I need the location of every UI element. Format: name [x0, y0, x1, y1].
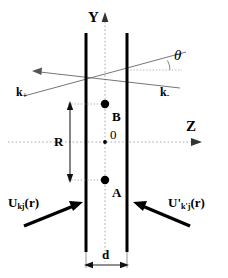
origin-label: 0	[110, 128, 117, 141]
k-plus-base: k	[16, 85, 23, 99]
physics-diagram-figure: Y Z 0 B A R d k+ k- θ Ukj(r) U'k'j(r)	[0, 0, 228, 278]
right-field-label: U'k'j(r)	[168, 196, 205, 209]
z-axis-label: Z	[186, 119, 196, 134]
left-field-subscript: kj	[17, 202, 24, 211]
y-axis-arrowhead-icon	[102, 12, 109, 22]
r-measure-arrowhead-bottom-icon	[67, 174, 73, 183]
k-minus-label: k-	[160, 86, 169, 98]
right-field-argument: (r)	[190, 195, 204, 210]
right-field-arrowhead-icon	[133, 201, 147, 211]
left-field-arrowhead-icon	[69, 201, 83, 211]
d-measure-arrowhead-right-icon	[120, 262, 129, 268]
z-axis-arrowhead-icon	[191, 138, 202, 146]
left-field-label: Ukj(r)	[8, 196, 39, 209]
theta-angle-label: θ	[174, 48, 181, 63]
point-a-label: A	[112, 186, 121, 199]
point-a-dot	[101, 176, 109, 184]
r-measure-arrowhead-top-icon	[67, 101, 73, 110]
left-field-base: U	[8, 195, 17, 210]
point-b-dot	[101, 100, 109, 108]
left-field-argument: (r)	[25, 195, 39, 210]
k-plus-label: k+	[16, 86, 27, 98]
d-measure-arrowhead-left-icon	[84, 262, 93, 268]
theta-angle-arc	[168, 61, 171, 71]
k-minus-base: k	[160, 85, 167, 99]
origin-dot	[103, 140, 107, 144]
right-field-base: U	[168, 195, 177, 210]
k-minus-subscript: -	[167, 91, 169, 100]
y-axis-label: Y	[88, 10, 99, 25]
k-plus-subscript: +	[23, 91, 27, 100]
k-minus-arrowhead-icon	[32, 68, 42, 76]
right-field-subscript: k'j	[181, 202, 190, 211]
r-measurement-label: R	[54, 135, 63, 148]
point-b-label: B	[112, 110, 121, 123]
d-measurement-label: d	[102, 248, 109, 261]
